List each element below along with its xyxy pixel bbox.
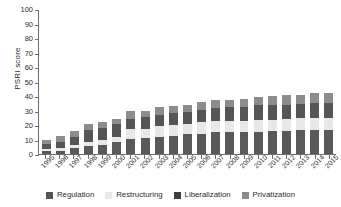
stacked-bar[interactable]	[211, 100, 220, 154]
bar-segment-privatization[interactable]	[126, 111, 135, 119]
bar-segment-liberalization[interactable]	[141, 138, 150, 154]
bar-slot[interactable]	[308, 10, 322, 154]
bar-segment-privatization[interactable]	[254, 97, 263, 105]
bar-segment-liberalization[interactable]	[126, 139, 135, 154]
bar-slot[interactable]	[124, 10, 138, 154]
bar-slot[interactable]	[195, 10, 209, 154]
bar-segment-privatization[interactable]	[197, 102, 206, 110]
bar-segment-restructuring[interactable]	[240, 121, 249, 132]
bar-segment-liberalization[interactable]	[240, 132, 249, 154]
stacked-bar[interactable]	[197, 102, 206, 154]
bar-slot[interactable]	[110, 10, 124, 154]
bar-segment-restructuring[interactable]	[324, 118, 333, 130]
bar-slot[interactable]	[237, 10, 251, 154]
bar-segment-restructuring[interactable]	[211, 121, 220, 132]
bar-slot[interactable]	[67, 10, 81, 154]
bar-slot[interactable]	[265, 10, 279, 154]
bar-segment-regulation[interactable]	[282, 105, 291, 120]
bar-segment-restructuring[interactable]	[310, 118, 319, 130]
bar-segment-regulation[interactable]	[70, 137, 79, 145]
stacked-bar[interactable]	[296, 95, 305, 154]
bar-segment-privatization[interactable]	[296, 95, 305, 104]
legend-item-privatization[interactable]: Privatization	[242, 191, 295, 199]
bar-segment-liberalization[interactable]	[112, 142, 121, 154]
bar-segment-regulation[interactable]	[197, 110, 206, 122]
bar-segment-regulation[interactable]	[155, 115, 164, 127]
bar-segment-regulation[interactable]	[324, 103, 333, 118]
legend-item-liberalization[interactable]: Liberalization	[174, 191, 231, 199]
bar-segment-regulation[interactable]	[240, 107, 249, 121]
stacked-bar[interactable]	[169, 106, 178, 154]
bar-segment-restructuring[interactable]	[141, 129, 150, 138]
bar-slot[interactable]	[152, 10, 166, 154]
stacked-bar[interactable]	[42, 140, 51, 154]
bar-slot[interactable]	[209, 10, 223, 154]
bar-segment-regulation[interactable]	[98, 128, 107, 140]
bar-segment-restructuring[interactable]	[155, 126, 164, 136]
bar-segment-restructuring[interactable]	[225, 121, 234, 133]
bar-slot[interactable]	[251, 10, 265, 154]
bar-segment-privatization[interactable]	[310, 93, 319, 103]
bar-segment-privatization[interactable]	[211, 100, 220, 107]
bar-segment-restructuring[interactable]	[183, 124, 192, 135]
stacked-bar[interactable]	[310, 93, 319, 154]
bar-slot[interactable]	[223, 10, 237, 154]
stacked-bar[interactable]	[141, 111, 150, 154]
stacked-bar[interactable]	[84, 124, 93, 154]
bar-segment-liberalization[interactable]	[324, 130, 333, 154]
bar-segment-liberalization[interactable]	[155, 137, 164, 154]
bar-segment-privatization[interactable]	[324, 93, 333, 102]
bar-segment-liberalization[interactable]	[225, 132, 234, 154]
stacked-bar[interactable]	[324, 93, 333, 154]
bar-segment-regulation[interactable]	[225, 107, 234, 121]
bar-slot[interactable]	[39, 10, 53, 154]
stacked-bar[interactable]	[98, 122, 107, 154]
stacked-bar[interactable]	[70, 131, 79, 154]
bar-segment-restructuring[interactable]	[254, 120, 263, 132]
bar-slot[interactable]	[53, 10, 67, 154]
stacked-bar[interactable]	[112, 119, 121, 155]
bar-segment-restructuring[interactable]	[126, 129, 135, 139]
bar-segment-liberalization[interactable]	[98, 145, 107, 154]
stacked-bar[interactable]	[240, 99, 249, 154]
bar-segment-liberalization[interactable]	[282, 131, 291, 154]
bar-segment-privatization[interactable]	[169, 106, 178, 113]
bar-slot[interactable]	[180, 10, 194, 154]
bar-segment-privatization[interactable]	[268, 96, 277, 105]
legend-item-regulation[interactable]: Regulation	[46, 191, 94, 199]
bar-segment-restructuring[interactable]	[169, 125, 178, 136]
bar-segment-regulation[interactable]	[183, 112, 192, 124]
stacked-bar[interactable]	[268, 96, 277, 154]
bar-segment-regulation[interactable]	[296, 104, 305, 119]
bar-slot[interactable]	[96, 10, 110, 154]
bar-segment-liberalization[interactable]	[84, 146, 93, 154]
bar-segment-restructuring[interactable]	[282, 119, 291, 131]
bar-segment-privatization[interactable]	[240, 99, 249, 107]
legend-item-restructuring[interactable]: Restructuring	[105, 191, 162, 199]
bar-segment-privatization[interactable]	[282, 95, 291, 104]
stacked-bar[interactable]	[155, 107, 164, 154]
bar-segment-liberalization[interactable]	[183, 134, 192, 154]
bar-slot[interactable]	[279, 10, 293, 154]
bar-segment-regulation[interactable]	[84, 130, 93, 142]
bar-slot[interactable]	[138, 10, 152, 154]
bar-segment-restructuring[interactable]	[268, 120, 277, 131]
bar-segment-restructuring[interactable]	[296, 118, 305, 130]
bar-segment-liberalization[interactable]	[197, 134, 206, 154]
stacked-bar[interactable]	[254, 97, 263, 154]
bar-segment-liberalization[interactable]	[268, 131, 277, 154]
bar-segment-regulation[interactable]	[211, 108, 220, 122]
bar-segment-regulation[interactable]	[254, 105, 263, 120]
bar-segment-privatization[interactable]	[225, 100, 234, 107]
bar-segment-liberalization[interactable]	[211, 132, 220, 154]
bar-segment-regulation[interactable]	[169, 113, 178, 125]
bar-segment-privatization[interactable]	[155, 107, 164, 115]
bar-segment-restructuring[interactable]	[197, 122, 206, 134]
bar-segment-regulation[interactable]	[310, 103, 319, 118]
bar-segment-regulation[interactable]	[141, 117, 150, 129]
stacked-bar[interactable]	[225, 100, 234, 154]
bar-segment-liberalization[interactable]	[296, 130, 305, 154]
bar-slot[interactable]	[322, 10, 336, 154]
stacked-bar[interactable]	[183, 105, 192, 154]
bar-segment-privatization[interactable]	[183, 105, 192, 112]
